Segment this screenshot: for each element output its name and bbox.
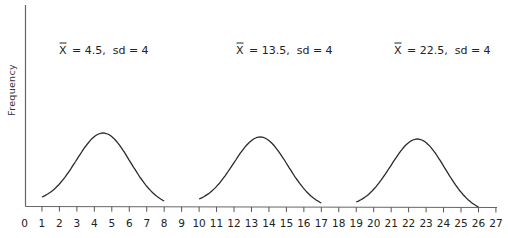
distribution-curves (42, 133, 479, 207)
svg-text:X: X (236, 44, 244, 57)
x-axis-ticks: 0123456789101112131415161718192021222324… (21, 207, 502, 229)
x-tick-label: 10 (192, 217, 205, 229)
x-tick-label: 23 (419, 217, 432, 229)
x-tick-label: 8 (161, 217, 168, 229)
x-tick-label: 3 (74, 217, 81, 229)
x-tick-label: 19 (350, 217, 363, 229)
x-tick-label: 18 (332, 217, 345, 229)
mean-sd-annotation: X= 4.5, sd = 4 (59, 43, 149, 57)
x-tick-label: 21 (384, 217, 397, 229)
svg-text:= 22.5, sd = 4: = 22.5, sd = 4 (407, 44, 491, 57)
mean-sd-annotation: X= 22.5, sd = 4 (394, 43, 491, 57)
x-tick-label: 4 (91, 217, 98, 229)
x-tick-label: 16 (297, 217, 311, 229)
svg-text:X: X (394, 44, 402, 57)
x-tick-label: 7 (143, 217, 150, 229)
svg-text:= 13.5, sd = 4: = 13.5, sd = 4 (249, 44, 333, 57)
x-tick-label: 12 (227, 217, 240, 229)
distribution-curve (199, 137, 321, 203)
x-tick-label: 9 (178, 217, 185, 229)
x-tick-label: 2 (56, 217, 63, 229)
x-tick-label: 1 (39, 217, 46, 229)
normal-distributions-chart: Frequency 012345678910111213141516171819… (0, 0, 508, 238)
distribution-curve (42, 133, 164, 201)
x-tick-label: 11 (210, 217, 223, 229)
x-axis (26, 207, 498, 208)
curve-annotations: X= 4.5, sd = 4X= 13.5, sd = 4X= 22.5, sd… (59, 43, 491, 57)
mean-sd-annotation: X= 13.5, sd = 4 (236, 43, 333, 57)
x-tick-label: 15 (280, 217, 293, 229)
x-tick-label: 5 (108, 217, 115, 229)
x-tick-label: 6 (126, 217, 133, 229)
x-tick-label: 0 (21, 217, 28, 229)
x-tick-label: 20 (367, 217, 380, 229)
x-tick-label: 13 (245, 217, 258, 229)
svg-text:X: X (59, 44, 67, 57)
x-tick-label: 27 (489, 217, 502, 229)
distribution-curve (356, 139, 478, 207)
x-tick-label: 26 (472, 217, 486, 229)
x-tick-label: 17 (315, 217, 328, 229)
x-tick-label: 24 (437, 217, 451, 229)
svg-text:= 4.5, sd = 4: = 4.5, sd = 4 (72, 44, 149, 57)
y-axis-label: Frequency (6, 64, 17, 116)
x-tick-label: 25 (454, 217, 467, 229)
x-tick-label: 14 (262, 217, 276, 229)
x-tick-label: 22 (402, 217, 415, 229)
